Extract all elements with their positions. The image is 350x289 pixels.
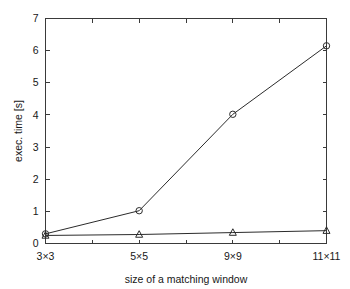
line-chart: 01234567 3×35×59×911×11 size of a matchi…	[0, 0, 350, 289]
y-axis: 01234567	[33, 12, 327, 249]
data-series	[42, 43, 329, 237]
x-axis-title: size of a matching window	[125, 273, 248, 285]
x-tick-label: 3×3	[37, 250, 55, 262]
data-series-group	[42, 43, 330, 239]
x-tick-label: 5×5	[130, 250, 148, 262]
y-tick-label: 6	[33, 44, 39, 56]
x-tick-label: 11×11	[313, 250, 341, 262]
y-tick-label: 7	[33, 12, 39, 24]
y-tick-label: 4	[33, 109, 39, 121]
plot-border	[46, 19, 327, 244]
series-line	[46, 231, 327, 236]
y-tick-label: 2	[33, 173, 39, 185]
y-axis-title: exec. time [s]	[12, 100, 24, 162]
plot-frame	[46, 19, 327, 244]
figure-container: 01234567 3×35×59×911×11 size of a matchi…	[0, 0, 350, 289]
y-tick-label: 0	[33, 237, 39, 249]
series-line	[46, 46, 327, 234]
y-tick-label: 3	[33, 141, 39, 153]
y-tick-label: 1	[33, 205, 39, 217]
x-tick-label: 9×9	[224, 250, 242, 262]
y-tick-label: 5	[33, 76, 39, 88]
data-series	[42, 227, 330, 238]
